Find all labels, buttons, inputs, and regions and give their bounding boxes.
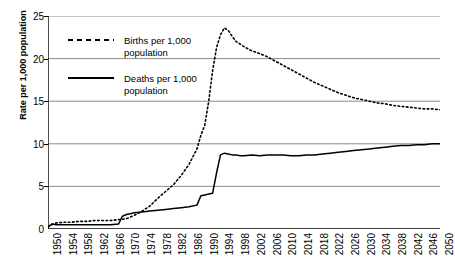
x-tick-label: 2006 bbox=[272, 233, 283, 255]
y-tick-label: 10 bbox=[22, 138, 44, 149]
x-tick-label: 1958 bbox=[83, 233, 94, 255]
x-tick-label: 2042 bbox=[413, 233, 424, 255]
x-tick-label: 2018 bbox=[319, 233, 330, 255]
x-tick-label: 1994 bbox=[224, 233, 235, 255]
x-tick-label: 2002 bbox=[256, 233, 267, 255]
x-tick-label: 2050 bbox=[444, 233, 455, 255]
x-tick-label: 1986 bbox=[193, 233, 204, 255]
series-line-births bbox=[48, 28, 440, 227]
x-tick-label: 1982 bbox=[177, 233, 188, 255]
x-tick-label: 2014 bbox=[303, 233, 314, 255]
x-tick-label: 1954 bbox=[68, 233, 79, 255]
x-tick-label: 2034 bbox=[381, 233, 392, 255]
x-tick-label: 2030 bbox=[366, 233, 377, 255]
legend-label: Births per 1,000 bbox=[124, 35, 191, 46]
plot-area: Births per 1,000populationDeaths per 1,0… bbox=[48, 16, 440, 229]
x-tick-label: 2026 bbox=[350, 233, 361, 255]
x-tick-label: 2010 bbox=[287, 233, 298, 255]
x-axis-tick-labels: 1950195419581962196619701974197819821986… bbox=[48, 233, 440, 275]
x-tick-label: 1962 bbox=[99, 233, 110, 255]
y-tick-label: 25 bbox=[22, 11, 44, 22]
chart-legend: Births per 1,000populationDeaths per 1,0… bbox=[68, 35, 197, 96]
x-tick-label: 1998 bbox=[240, 233, 251, 255]
x-tick-label: 1978 bbox=[162, 233, 173, 255]
y-tick-label: 20 bbox=[22, 53, 44, 64]
series-line-deaths bbox=[48, 144, 440, 228]
y-axis-tick-labels: 0510152025 bbox=[20, 16, 44, 229]
x-tick-label: 2022 bbox=[334, 233, 345, 255]
chart-svg: Births per 1,000populationDeaths per 1,0… bbox=[48, 16, 440, 229]
x-tick-label: 2046 bbox=[428, 233, 439, 255]
y-tick-label: 0 bbox=[22, 224, 44, 235]
legend-label: population bbox=[124, 47, 168, 58]
x-tick-label: 1970 bbox=[130, 233, 141, 255]
x-tick-label: 1966 bbox=[115, 233, 126, 255]
legend-label: population bbox=[124, 85, 168, 96]
y-tick-label: 15 bbox=[22, 96, 44, 107]
x-tick-label: 2038 bbox=[397, 233, 408, 255]
y-tick-label: 5 bbox=[22, 181, 44, 192]
x-tick-label: 1990 bbox=[209, 233, 220, 255]
legend-label: Deaths per 1,000 bbox=[124, 73, 197, 84]
x-tick-label: 1950 bbox=[52, 233, 63, 255]
x-tick-label: 1974 bbox=[146, 233, 157, 255]
